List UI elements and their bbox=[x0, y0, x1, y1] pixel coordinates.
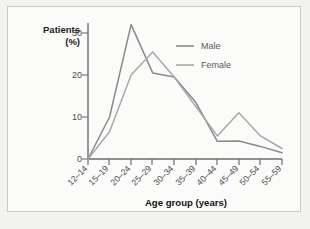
x-tick-label-1: 15–19 bbox=[86, 163, 110, 187]
chart-plot-area: Patients (%) 30 20 10 0 bbox=[8, 7, 302, 213]
caption-strip bbox=[6, 216, 126, 226]
x-tick-label-2: 20–24 bbox=[108, 163, 132, 187]
x-tick-label-6: 40–44 bbox=[194, 163, 218, 187]
legend-label-female: Female bbox=[201, 60, 231, 70]
y-tick-label-30: 30 bbox=[72, 28, 82, 38]
x-tick-label-4: 30–34 bbox=[151, 163, 175, 187]
x-tick-label-3: 25–29 bbox=[129, 163, 153, 187]
x-tick-label-8: 50–54 bbox=[237, 163, 261, 187]
y-tick-label-10: 10 bbox=[72, 112, 82, 122]
y-tick-label-20: 20 bbox=[72, 70, 82, 80]
figure-frame: Patients (%) 30 20 10 0 bbox=[7, 6, 301, 212]
x-tick-label-7: 45–49 bbox=[216, 163, 240, 187]
y-tick-marks bbox=[82, 33, 88, 159]
legend-label-male: Male bbox=[201, 41, 221, 51]
chart-svg: Patients (%) 30 20 10 0 bbox=[8, 7, 302, 213]
x-axis-title: Age group (years) bbox=[145, 197, 227, 208]
x-tick-label-5: 35–39 bbox=[173, 163, 197, 187]
series-line-female bbox=[88, 52, 282, 159]
legend: Male Female bbox=[176, 41, 231, 70]
x-tick-label-9: 55–59 bbox=[259, 163, 283, 187]
x-tick-label-0: 12–14 bbox=[65, 163, 89, 187]
y-tick-label-0: 0 bbox=[77, 154, 82, 164]
